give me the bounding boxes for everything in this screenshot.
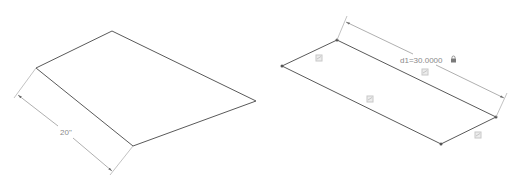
right-extension-line-1 [337, 16, 347, 40]
right-sketch[interactable]: d1=30.0000 [281, 16, 508, 146]
left-dimension-label[interactable]: 20" [60, 128, 72, 137]
left-extension-line-2 [110, 146, 133, 175]
parallel-constraint-icon[interactable] [475, 132, 481, 138]
vertex-point[interactable] [281, 65, 284, 68]
parallel-constraint-icon[interactable] [422, 69, 428, 75]
parallel-constraint-icon[interactable] [316, 55, 322, 61]
parallel-constraint-icon[interactable] [367, 96, 373, 102]
left-extension-line-1 [14, 68, 36, 98]
right-dimension-label[interactable]: d1=30.0000 [400, 56, 443, 65]
left-sketch[interactable]: 20" [14, 31, 256, 175]
vertex-point[interactable] [440, 143, 443, 146]
lock-icon [451, 56, 456, 63]
drawing-canvas[interactable]: 20" d1=30.0000 [0, 0, 525, 194]
left-dimension-line-a[interactable] [18, 95, 58, 126]
right-sketch-profile[interactable] [282, 40, 496, 144]
left-dimension-line-b[interactable] [73, 138, 112, 171]
